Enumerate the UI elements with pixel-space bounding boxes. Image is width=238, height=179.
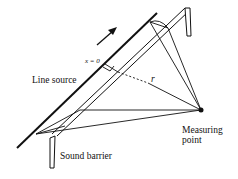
- r-label: r: [151, 74, 155, 84]
- measuring-point-line1: Measuring: [182, 125, 223, 135]
- measuring-point-line2: point: [182, 135, 223, 145]
- direction-arrow-icon: [97, 27, 117, 45]
- sound-barrier-label: Sound barrier: [60, 151, 112, 161]
- x-zero-label: x = 0: [85, 56, 100, 66]
- line-source-label: Line source: [32, 75, 77, 85]
- measuring-point-label: Measuring point: [182, 125, 223, 145]
- measuring-point-dot: [199, 108, 204, 113]
- diagram-canvas: [0, 0, 238, 179]
